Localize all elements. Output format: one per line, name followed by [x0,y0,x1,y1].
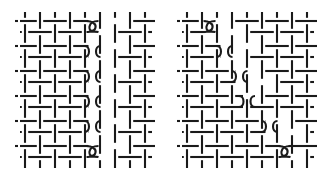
weave-diagram-canvas [0,0,328,181]
bend-curve-left [239,96,244,107]
loop-curve [279,146,291,156]
loop-curve [87,146,99,156]
weave-diagram-figure [0,0,328,181]
loop-curve [87,21,99,31]
loop-curve [204,21,216,31]
left-weave-panel [15,12,155,168]
right-weave-panel [177,12,317,168]
bend-curve-right [251,96,256,107]
